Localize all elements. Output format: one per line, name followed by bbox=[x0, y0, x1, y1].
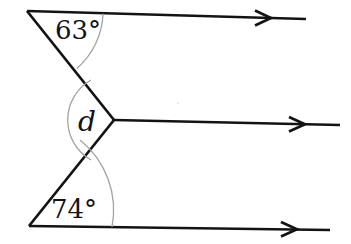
bottom-parallel-line bbox=[29, 226, 330, 230]
parallel-lines-angle-diagram: 63° d 74° bbox=[0, 0, 351, 244]
speck-artifact bbox=[177, 102, 179, 104]
label-group: 63° d 74° bbox=[51, 15, 101, 224]
geometry-diagram-canvas: 63° d 74° bbox=[0, 0, 351, 244]
angle-label-middle: d bbox=[78, 105, 96, 138]
angle-label-bottom: 74° bbox=[51, 194, 97, 224]
angle-label-top: 63° bbox=[55, 15, 101, 45]
